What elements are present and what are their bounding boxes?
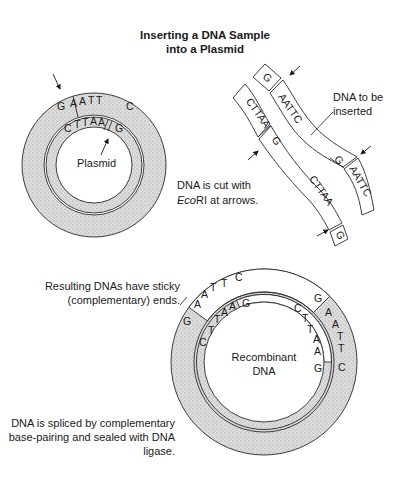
svg-text:A: A	[314, 345, 321, 357]
svg-text:C: C	[235, 271, 243, 283]
svg-text:A: A	[325, 306, 332, 318]
svg-text:T: T	[337, 330, 344, 342]
svg-text:T: T	[214, 313, 221, 325]
svg-text:T: T	[208, 324, 215, 336]
cut-note: EcoRI at arrows.	[177, 194, 258, 206]
sticky-note: (complementary) ends.	[68, 294, 181, 306]
diagram-title: into a Plasmid	[166, 43, 244, 55]
base-label: A	[98, 116, 105, 128]
base-label: T	[82, 116, 89, 128]
base-label: C	[64, 122, 72, 134]
base-label: A	[90, 115, 97, 127]
svg-text:C: C	[294, 302, 302, 314]
cut-arrow-icon	[361, 146, 371, 154]
splice-note: ligase.	[143, 445, 175, 457]
base-label: T	[96, 94, 103, 106]
cut-arrow-icon	[248, 151, 258, 160]
plasmid-label: Plasmid	[77, 157, 116, 169]
svg-text:C: C	[338, 361, 346, 373]
svg-text:G: G	[314, 362, 322, 374]
diagram-title: Inserting a DNA Sample	[140, 29, 270, 41]
base-label: A	[79, 95, 86, 107]
svg-text:A: A	[229, 300, 236, 312]
svg-text:T: T	[221, 277, 228, 289]
svg-text:C: C	[199, 336, 207, 348]
recombinant-label: Recombinant	[232, 351, 297, 363]
base-label: C	[126, 100, 134, 112]
base-label: G	[115, 122, 123, 134]
svg-text:G: G	[242, 297, 250, 309]
base-label: A	[70, 97, 77, 109]
diagram-canvas: G A A T T C C T T A A G Plasmid	[0, 0, 407, 478]
cut-note: DNA is cut with	[177, 179, 251, 191]
splice-note: base-pairing and sealed with DNA	[9, 431, 176, 443]
insert-label: inserted	[333, 105, 372, 117]
svg-text:G: G	[314, 292, 322, 304]
base-label: T	[88, 94, 95, 106]
svg-text:A: A	[221, 306, 228, 318]
base-label: T	[74, 118, 81, 130]
pointer-line	[311, 112, 333, 135]
recombinant-label: DNA	[252, 365, 276, 377]
cut-arrow-icon	[53, 74, 60, 89]
pointer-line	[180, 297, 187, 305]
svg-text:A: A	[194, 298, 201, 310]
recombinant-diagram: Recombinant DNA G A A T T C C T T A A G …	[171, 269, 357, 455]
plasmid-diagram: G A A T T C C T T A A G Plasmid	[22, 74, 166, 237]
insert-label: DNA to be	[333, 91, 383, 103]
svg-text:A: A	[201, 288, 208, 300]
cut-arrow-icon	[290, 66, 300, 75]
svg-text:A: A	[332, 318, 339, 330]
svg-text:A: A	[313, 333, 320, 345]
svg-text:T: T	[338, 342, 345, 354]
cut-arrow-icon	[317, 230, 328, 236]
svg-text:G: G	[183, 315, 191, 327]
base-label: G	[57, 100, 65, 112]
sticky-note: Resulting DNAs have sticky	[45, 280, 181, 292]
splice-note: DNA is spliced by complementary	[11, 417, 175, 429]
svg-text:T: T	[210, 281, 217, 293]
